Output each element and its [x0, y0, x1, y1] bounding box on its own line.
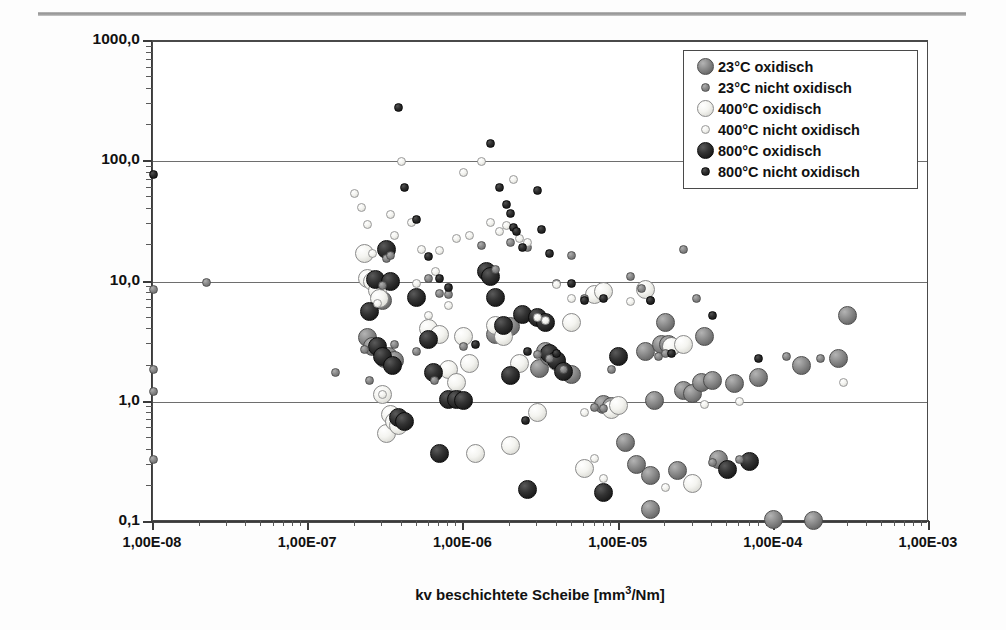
data-point — [695, 327, 714, 346]
x-tick-label: 1,00E-03 — [868, 534, 988, 550]
data-point — [683, 474, 702, 493]
data-point — [674, 335, 693, 354]
data-point — [533, 186, 542, 195]
legend-swatch — [692, 58, 718, 75]
data-point — [599, 474, 608, 483]
data-point — [373, 299, 382, 308]
legend-item[interactable]: 800°C nicht oxidisch — [692, 161, 911, 182]
data-point — [656, 313, 675, 332]
data-point — [804, 511, 823, 530]
data-point — [537, 225, 546, 234]
legend-swatch — [692, 125, 718, 134]
y-tick-label: 1000,0 — [48, 30, 140, 48]
data-point — [708, 311, 717, 320]
figure-page: P x V [MPa*ms-1] kv beschichtete Scheibe… — [0, 0, 1006, 630]
x-tick-label: 1,00E-04 — [713, 534, 833, 550]
data-point — [501, 436, 520, 455]
data-point — [506, 238, 515, 247]
data-point — [567, 294, 576, 303]
y-tick-mark — [143, 281, 152, 283]
legend-marker-icon — [697, 142, 714, 159]
data-point — [725, 374, 744, 393]
data-point — [430, 444, 449, 463]
data-point — [365, 376, 374, 385]
data-point — [607, 365, 616, 374]
data-point — [477, 241, 486, 250]
legend-item-label: 400°C oxidisch — [718, 101, 821, 117]
legend-item[interactable]: 23°C oxidisch — [692, 56, 911, 77]
y-tick-label: 1,0 — [48, 391, 140, 409]
x-axis-title-tail: /Nm] — [631, 586, 664, 603]
chart-wrapper: P x V [MPa*ms-1] kv beschichtete Scheibe… — [0, 0, 1006, 630]
data-point — [400, 183, 409, 192]
data-point — [386, 210, 395, 219]
data-point — [471, 340, 480, 349]
y-tick-label: 10,0 — [48, 271, 140, 289]
data-point — [703, 371, 722, 390]
data-point — [466, 444, 485, 463]
x-axis-title-text: kv beschichtete Scheibe [mm — [415, 586, 625, 603]
data-point — [149, 365, 158, 374]
data-point — [637, 284, 646, 293]
y-tick-mark — [143, 40, 152, 42]
data-point — [486, 139, 495, 148]
legend-item[interactable]: 800°C oxidisch — [692, 140, 911, 161]
legend-marker-icon — [697, 100, 714, 117]
data-point — [754, 354, 763, 363]
data-point — [486, 288, 505, 307]
data-point — [501, 366, 520, 385]
y-tick-label: 100,0 — [48, 150, 140, 168]
data-point — [594, 483, 613, 502]
data-point — [764, 510, 783, 529]
data-point — [661, 483, 670, 492]
data-point — [494, 316, 513, 335]
data-point — [506, 209, 515, 218]
legend-swatch — [692, 167, 718, 176]
data-point — [430, 376, 439, 385]
data-point — [518, 480, 537, 499]
legend-item[interactable]: 400°C oxidisch — [692, 98, 911, 119]
data-point — [528, 403, 547, 422]
data-point — [552, 280, 561, 289]
data-point — [363, 220, 372, 229]
data-point — [580, 408, 589, 417]
data-point — [378, 281, 387, 290]
legend-item[interactable]: 23°C nicht oxidisch — [692, 77, 911, 98]
x-tick-label: 1,00E-06 — [402, 534, 522, 550]
data-point — [816, 354, 825, 363]
legend-item[interactable]: 400°C nicht oxidisch — [692, 119, 911, 140]
y-tick-label: 0,1 — [48, 511, 140, 529]
legend[interactable]: 23°C oxidisch23°C nicht oxidisch400°C ox… — [683, 50, 918, 189]
y-tick-mark — [143, 521, 152, 523]
data-point — [378, 390, 387, 399]
gridline — [153, 41, 927, 42]
data-point — [454, 391, 473, 410]
y-tick-mark — [143, 401, 152, 403]
data-point — [735, 455, 744, 464]
data-point — [419, 330, 438, 349]
legend-marker-icon — [701, 125, 710, 134]
data-point — [202, 278, 211, 287]
data-point — [562, 313, 581, 332]
data-point — [718, 460, 737, 479]
data-point — [646, 296, 655, 305]
data-point — [590, 454, 599, 463]
data-point — [386, 251, 395, 260]
data-point — [149, 387, 158, 396]
data-point — [390, 231, 399, 240]
data-point — [616, 433, 635, 452]
data-point — [545, 249, 554, 258]
data-point — [645, 391, 664, 410]
data-point — [444, 301, 453, 310]
data-point — [486, 218, 495, 227]
data-point — [641, 466, 660, 485]
data-point — [368, 249, 377, 258]
data-point — [829, 349, 848, 368]
data-point — [424, 252, 433, 261]
data-point — [609, 347, 628, 366]
data-point — [626, 272, 635, 281]
legend-swatch — [692, 142, 718, 159]
data-point — [700, 400, 709, 409]
data-point — [692, 294, 701, 303]
data-point — [412, 347, 421, 356]
